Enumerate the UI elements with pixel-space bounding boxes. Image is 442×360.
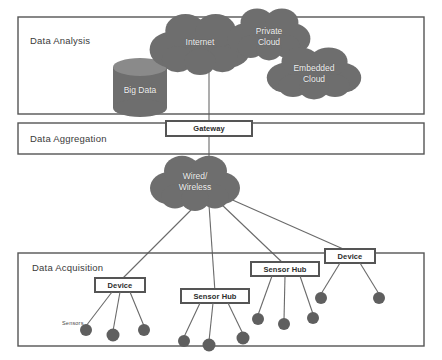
internet-cloud-label: Internet: [170, 37, 230, 48]
sensor-hub-2-label: Sensor Hub: [254, 265, 316, 274]
private-cloud-label-line1: Private: [256, 26, 282, 36]
sensor-node: [203, 339, 216, 352]
gateway-label: Gateway: [168, 124, 250, 133]
sensor-node: [237, 332, 250, 345]
sensors-caption: Sensors: [62, 320, 84, 326]
device-1-label: Device: [97, 281, 143, 290]
big-data-label: Big Data: [113, 85, 167, 96]
layer-label-data-aggregation: Data Aggregation: [30, 133, 107, 144]
link-network-device1: [120, 203, 198, 281]
private-cloud-label-line2: Cloud: [258, 37, 280, 47]
wired-wireless-label-line2: Wireless: [179, 182, 212, 192]
diagram-canvas: Data Analysis Data Aggregation Data Acqu…: [0, 0, 442, 360]
sensor-node: [278, 318, 290, 330]
wired-wireless-label-line1: Wired/: [183, 171, 208, 181]
sensor-node: [307, 312, 319, 324]
sensor-node: [373, 292, 385, 304]
layer-label-data-analysis: Data Analysis: [30, 35, 90, 46]
embedded-cloud-label: Embedded Cloud: [281, 63, 347, 84]
sensor-node: [138, 324, 150, 336]
embedded-cloud-label-line2: Cloud: [303, 74, 325, 84]
sensor-node: [178, 335, 190, 347]
link-network-device2: [228, 198, 350, 252]
sensor-node: [252, 313, 264, 325]
device-2-label: Device: [327, 252, 373, 261]
private-cloud-label: Private Cloud: [243, 26, 295, 47]
layer-label-data-acquisition: Data Acquisition: [32, 262, 103, 273]
embedded-cloud-label-line1: Embedded: [293, 63, 334, 73]
cloud-group-top: [150, 8, 362, 99]
sensor-node: [107, 329, 120, 342]
link-network-hub2: [220, 203, 285, 265]
sensor-node: [315, 292, 327, 304]
link-network-hub1: [209, 205, 215, 292]
wired-wireless-cloud-label: Wired/ Wireless: [166, 171, 224, 192]
sensor-hub-1-label: Sensor Hub: [184, 292, 246, 301]
